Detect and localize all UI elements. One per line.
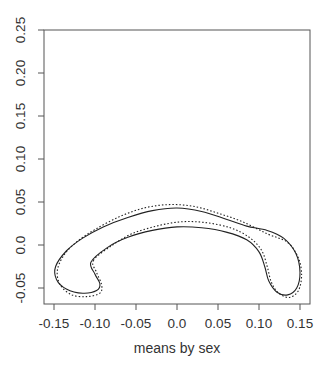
x-tick-label: 0.10 [246,316,272,331]
x-tick-label: 0.05 [205,316,231,331]
y-tick-label: 0.10 [13,146,28,172]
x-axis: -0.15-0.10-0.050.00.050.100.15 [39,304,314,331]
y-tick-label: 0.0 [13,236,28,255]
y-axis: -0.050.00.050.100.150.200.25 [13,17,44,304]
x-tick-label: 0.0 [168,316,187,331]
x-axis-title: means by sex [134,340,220,356]
y-tick-label: 0.15 [13,103,28,129]
y-tick-label: -0.05 [13,273,28,304]
solid-contour-line [55,208,300,295]
x-tick-label: 0.15 [287,316,313,331]
x-tick-label: -0.10 [80,316,111,331]
series-group [55,205,302,298]
contour-chart: -0.050.00.050.100.150.200.25 -0.15-0.10-… [0,0,330,371]
x-tick-label: -0.05 [121,316,152,331]
y-tick-label: 0.25 [13,17,28,43]
y-tick-label: 0.05 [13,189,28,215]
plot-frame [44,30,310,304]
y-tick-label: 0.20 [13,60,28,86]
x-tick-label: -0.15 [39,316,70,331]
dotted-contour-line [57,205,301,298]
